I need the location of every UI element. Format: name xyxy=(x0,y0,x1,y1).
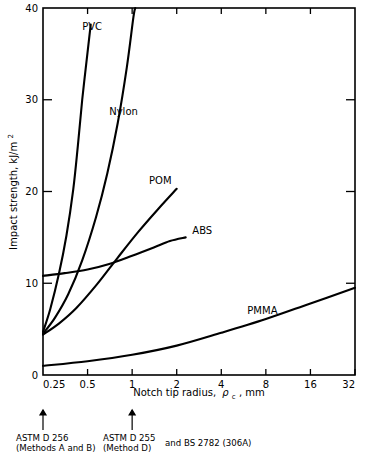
astm-d255-note-line-1: ASTM D 255 xyxy=(103,433,155,443)
data-curves xyxy=(43,8,355,366)
y-axis-title: Impact strength, kJ/m 2 xyxy=(7,134,19,250)
x-tick-label-16: 16 xyxy=(304,379,317,390)
astm-d256-note-line-2: (Methods A and B) xyxy=(16,443,96,453)
y-axis-tick-labels: 010203040 xyxy=(25,3,38,381)
y-tick-label-20: 20 xyxy=(25,186,38,197)
series-label-pvc: PVC xyxy=(82,21,102,32)
astm-d255-note-line-2: (Method D) xyxy=(103,443,151,453)
impact-strength-chart: 0.250.512481632 010203040 PVCNylonPOMABS… xyxy=(0,0,370,461)
up-arrow-head-icon xyxy=(40,410,46,415)
y-tick-label-30: 30 xyxy=(25,94,38,105)
astm-d256-note: ASTM D 256(Methods A and B) xyxy=(16,410,96,453)
plot-frame xyxy=(43,8,355,375)
astm-d255-note: ASTM D 255(Method D)and BS 2782 (306A) xyxy=(103,410,251,453)
y-tick-label-10: 10 xyxy=(25,278,38,289)
astm-annotations: ASTM D 256(Methods A and B)ASTM D 255(Me… xyxy=(16,410,251,453)
curve-pvc xyxy=(43,25,91,332)
series-label-pom: POM xyxy=(149,175,172,186)
curve-pom xyxy=(43,189,177,335)
x-axis-title-text: Notch tip radius, xyxy=(133,387,216,398)
x-tick-label-0.25: 0.25 xyxy=(43,379,65,390)
series-label-pmma: PMMA xyxy=(247,305,277,316)
astm-d256-note-line-1: ASTM D 256 xyxy=(16,433,68,443)
y-tick-label-0: 0 xyxy=(32,370,38,381)
astm-d255-note-suffix: and BS 2782 (306A) xyxy=(165,438,251,448)
x-tick-label-0.5: 0.5 xyxy=(80,379,96,390)
svg-text:Notch tip radius, ρ: Notch tip radius, ρ c , mm xyxy=(133,387,264,401)
x-axis-title-unit: , mm xyxy=(239,387,265,398)
x-axis-title-symbol: ρ xyxy=(222,387,229,398)
y-axis-ticks xyxy=(43,100,355,284)
series-label-nylon: Nylon xyxy=(109,106,138,117)
x-axis-title-subscript: c xyxy=(232,393,236,401)
x-tick-label-32: 32 xyxy=(342,379,355,390)
y-tick-label-40: 40 xyxy=(25,3,38,14)
curve-pmma xyxy=(43,288,355,366)
series-label-abs: ABS xyxy=(192,225,212,236)
impact-strength-figure: 0.250.512481632 010203040 PVCNylonPOMABS… xyxy=(0,0,370,461)
series-labels: PVCNylonPOMABSPMMA xyxy=(82,21,277,316)
y-axis-title-superscript: 2 xyxy=(7,134,15,138)
svg-text:Impact strength, kJ/m: Impact strength, kJ/m 2 xyxy=(7,134,19,250)
up-arrow-head-icon xyxy=(129,410,135,415)
x-axis-title: Notch tip radius, ρ c , mm xyxy=(133,387,264,401)
y-axis-title-text: Impact strength, kJ/m xyxy=(8,142,19,250)
